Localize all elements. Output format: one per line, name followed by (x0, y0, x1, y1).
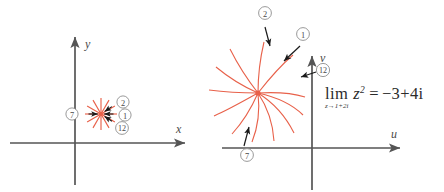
w-plane-axes (222, 56, 400, 190)
z-plane-label-1: 1 (119, 109, 131, 121)
equation-result: −3+4i (382, 84, 424, 103)
w-plane-label-1: 1 (297, 28, 310, 41)
w-label-7-text: 7 (245, 152, 249, 161)
w-plane-label-2: 2 (259, 7, 272, 20)
z-plane-axes (10, 37, 185, 185)
z-label-1-text: 1 (123, 112, 127, 121)
w-arrow-2 (265, 27, 270, 46)
u-axis-label: u (391, 127, 397, 141)
y-axis-label: y (84, 37, 91, 51)
equation-equals: = (369, 84, 379, 103)
w-plane-arrow-group (244, 27, 316, 146)
z-label-2-text: 2 (121, 99, 125, 108)
z-label-12-text: 12 (118, 124, 126, 133)
z-arrow-12 (105, 117, 112, 122)
w-label-2-text: 2 (263, 10, 267, 19)
w-label-12-text: 12 (319, 66, 327, 75)
w-label-1-text: 1 (301, 31, 305, 40)
x-axis-label: x (175, 122, 182, 136)
z-plane-label-12: 12 (116, 122, 129, 135)
z-plane-limit-point (99, 112, 103, 116)
limit-equation: limz2=−3+4i (325, 84, 424, 104)
complex-limit-figure: x y (0, 0, 444, 192)
w-arrow-7 (244, 127, 249, 146)
equation-base: z (353, 84, 360, 103)
z-plane-panel: x y (10, 37, 185, 185)
w-plane-label-12: 12 (316, 63, 329, 76)
limit-subscript: z→1+2i (325, 102, 348, 110)
limit-operator: lim (325, 84, 348, 103)
equation-exponent: 2 (360, 85, 365, 95)
z-label-7-text: 7 (70, 111, 74, 120)
z-plane-label-2: 2 (117, 96, 129, 108)
v-axis-label: v (320, 51, 326, 65)
w-plane-label-7: 7 (241, 149, 254, 162)
z-plane-label-7: 7 (66, 108, 78, 120)
w-arrow-1 (284, 46, 300, 61)
w-arrow-12 (301, 72, 316, 77)
w-plane-limit-point (255, 90, 260, 95)
